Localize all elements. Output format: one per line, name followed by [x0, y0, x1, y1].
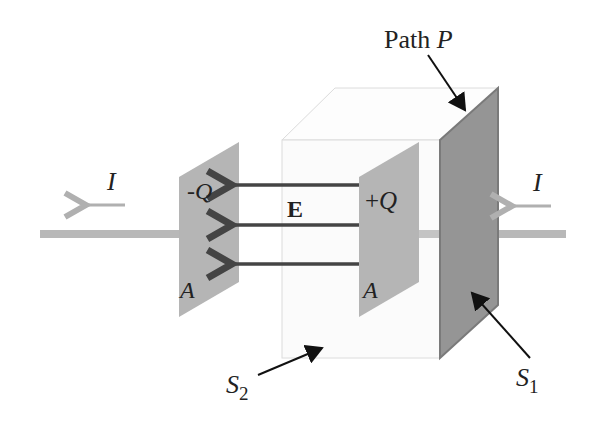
field-label: E [287, 196, 303, 222]
area-label-left: A [178, 277, 195, 303]
positive-charge-label: +Q [365, 187, 397, 214]
surface2-label: S2 [226, 370, 249, 404]
capacitor-diagram: Path P I I -Q +Q E A A S2 S1 [0, 0, 595, 423]
path-label: Path P [384, 25, 453, 54]
current-label-left: I [106, 167, 117, 196]
current-label-right: I [532, 168, 543, 197]
area-label-right: A [361, 277, 378, 303]
s1-pointer-arrow [472, 293, 530, 358]
left-wire [40, 230, 200, 238]
surface1-label: S1 [516, 363, 539, 397]
inner-wire [419, 230, 441, 238]
negative-charge-label: -Q [187, 178, 212, 204]
